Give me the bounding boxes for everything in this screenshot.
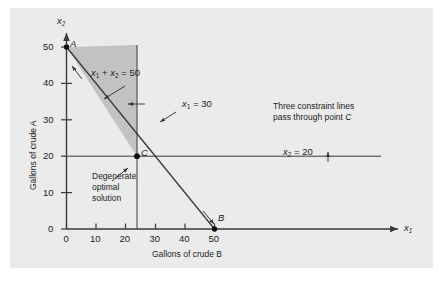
y-axis-variable-label: x2: [57, 16, 65, 28]
y-tick-label-0: 0: [48, 224, 53, 234]
y-tick-label-50: 50: [43, 42, 54, 52]
x-axis-variable-label: x1: [404, 223, 412, 235]
vertex-label-a: A: [70, 39, 76, 49]
feasible-region-shading: [67, 45, 138, 156]
y-axis-tick-stubs: [67, 83, 73, 192]
figure-container: x2 x1 0 10 20 30 40 50 0 10 20 30 40 50 …: [0, 0, 443, 283]
y-tick-label-40: 40: [43, 78, 54, 88]
vertex-label-c: C: [141, 148, 148, 158]
x-tick-label-0: 0: [64, 234, 69, 244]
constraint-label-sum-equals-50: x1 + x2 = 50: [91, 68, 140, 80]
x-tick-label-30: 30: [150, 234, 161, 244]
x-axis-title: Gallons of crude B: [152, 250, 222, 259]
y-tick-label-10: 10: [43, 188, 54, 198]
y-axis-title: Gallons of crude A: [28, 121, 38, 190]
constraint-label-x1-equals-30: x1 = 30: [182, 99, 212, 111]
x-tick-label-40: 40: [179, 234, 190, 244]
vertex-point-a-dot: [64, 44, 69, 49]
constraint-label-x2-equals-20: x2 = 20: [283, 147, 313, 159]
x-tick-label-50: 50: [209, 234, 220, 244]
y-tick-label-30: 30: [43, 115, 54, 125]
y-tick-label-20: 20: [43, 151, 54, 161]
vertex-point-c-dot: [134, 153, 140, 159]
x-tick-label-10: 10: [90, 234, 101, 244]
constraint-line-sum-equals-50: [67, 47, 215, 229]
y-axis-ticks: [61, 47, 67, 229]
degenerate-solution-note: Degenerate optimal solution: [92, 171, 136, 204]
vertex-label-b: B: [218, 213, 224, 223]
x-tick-label-20: 20: [120, 234, 131, 244]
x-axis-ticks: [67, 224, 215, 230]
vertex-point-b-dot: [212, 226, 217, 231]
three-constraint-lines-note: Three constraint linespass through point…: [273, 101, 354, 123]
leader-arrow-x1-constraint-to-line: [160, 112, 176, 122]
